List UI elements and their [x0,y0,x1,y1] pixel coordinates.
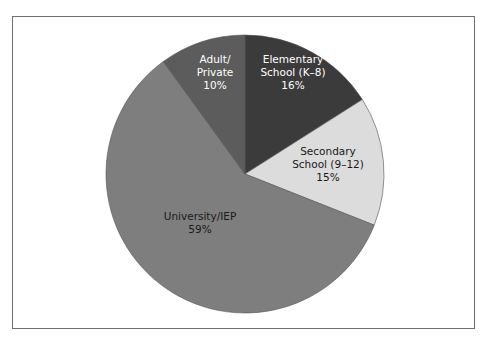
slice-percent-label: 10% [203,79,226,91]
slice-name-label: University/IEP [164,210,237,222]
slice-name-label: Secondary [300,145,356,157]
slice-name-label: Elementary [263,53,323,65]
pie-chart: ElementarySchool (K–8)16%SecondarySchool… [0,0,485,343]
slice-name-label: Private [197,66,234,78]
slice-name-label: School (9–12) [292,158,364,170]
slice-name-label: Adult/ [200,53,231,65]
slice-percent-label: 15% [316,171,339,183]
slice-percent-label: 16% [281,79,304,91]
slice-name-label: School (K–8) [260,66,325,78]
slice-percent-label: 59% [188,223,211,235]
